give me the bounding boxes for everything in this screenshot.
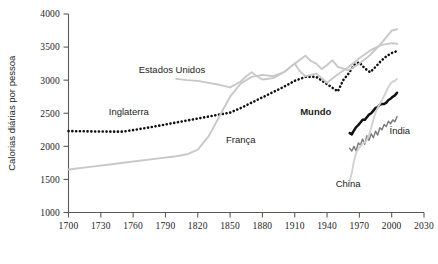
y-tick-label: 2500	[40, 109, 60, 119]
series-label-fran-a: França	[226, 134, 256, 145]
y-tick-label: 4000	[40, 9, 60, 19]
x-tick-label: 1910	[285, 221, 305, 231]
y-tick-label: 1000	[40, 208, 60, 218]
x-tick-label: 1790	[156, 221, 176, 231]
series-label--ndia: Índia	[390, 125, 411, 136]
x-tick-label: 1850	[220, 221, 240, 231]
x-tick-label: 1700	[59, 221, 79, 231]
line-chart: 1000150020002500300035004000170017301760…	[0, 0, 438, 264]
x-tick-label: 1760	[123, 221, 143, 231]
x-tick-label: 1970	[349, 221, 369, 231]
x-tick-label: 1880	[253, 221, 273, 231]
series-label-mundo: Mundo	[300, 106, 331, 117]
x-tick-label: 1940	[317, 221, 337, 231]
x-tick-label: 2000	[382, 221, 402, 231]
x-tick-label: 1730	[91, 221, 111, 231]
series-line-estados-unidos	[176, 29, 397, 87]
axes: 1000150020002500300035004000170017301760…	[40, 9, 434, 230]
y-tick-label: 3000	[40, 76, 60, 86]
series-labels: InglaterraFrançaEstados UnidosMundoÍndia…	[109, 64, 411, 189]
series-label-inglaterra: Inglaterra	[109, 106, 150, 117]
y-axis-title: Calorias diárias por pessoa	[6, 55, 17, 171]
series-line-inglaterra	[69, 51, 398, 132]
x-tick-label: 1820	[188, 221, 208, 231]
series-label-china: China	[336, 178, 362, 189]
y-tick-label: 1500	[40, 175, 60, 185]
x-tick-label: 2030	[414, 221, 434, 231]
chart-container: 1000150020002500300035004000170017301760…	[0, 0, 438, 264]
y-tick-label: 3500	[40, 42, 60, 52]
y-axis-title-text: Calorias diárias por pessoa	[6, 55, 17, 171]
series-label-estados-unidos: Estados Unidos	[139, 64, 206, 75]
y-tick-label: 2000	[40, 142, 60, 152]
